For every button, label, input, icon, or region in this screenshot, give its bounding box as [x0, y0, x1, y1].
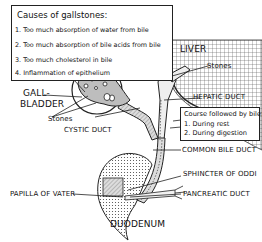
label-common-bile-duct: COMMON BILE DUCT [182, 147, 256, 154]
label-stones-gallbladder: Stones [48, 116, 72, 123]
label-duodenum: DUODENUM [110, 220, 165, 229]
label-sphincter-of-oddi: SPHINCTER OF ODDI [183, 171, 257, 178]
cause-item: 2. Too much absorption of bile acids fro… [15, 41, 161, 49]
causes-of-gallstones-box: Causes of gallstones: 1. Too much absorp… [11, 5, 173, 81]
course-followed-by-bile-box: Course followed by bile: 1. During rest … [180, 107, 260, 141]
causes-title: Causes of gallstones: [17, 10, 107, 20]
label-papilla-of-vater: PAPILLA OF VATER [10, 191, 75, 198]
cause-item: 4. Inflammation of epithelium [15, 69, 110, 77]
gallstones-diagram: Causes of gallstones: 1. Too much absorp… [0, 0, 262, 242]
cystic-duct-shape [118, 100, 158, 140]
label-hepatic-duct: HEPATIC DUCT [193, 94, 245, 101]
label-cystic-duct: CYSTIC DUCT [64, 127, 112, 134]
course-item: 1. During rest [184, 120, 229, 128]
label-gallbladder-line1: GALL- [23, 89, 50, 98]
cause-item: 3. Too much cholesterol in bile [15, 56, 112, 64]
label-stones-liver: Stones [207, 63, 231, 70]
cause-item: 1. Too much absorption of water from bil… [15, 26, 149, 34]
course-item: 2. During digestion [184, 129, 247, 137]
label-liver: LIVER [180, 45, 206, 54]
course-title: Course followed by bile: [184, 110, 262, 118]
label-gallbladder-line2: BLADDER [20, 100, 64, 109]
label-pancreatic-duct: PANCREATIC DUCT [183, 191, 250, 198]
